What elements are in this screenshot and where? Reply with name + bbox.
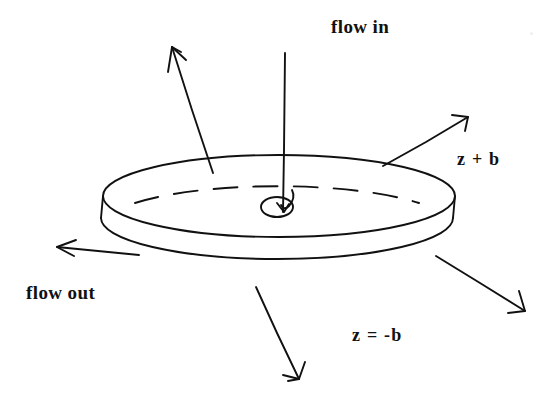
label-bottom-surface-z-equals-minus-b: z = -b	[352, 326, 402, 344]
label-top-surface-z-plus-b: z + b	[457, 150, 500, 168]
scan-artifact-speck	[530, 32, 533, 35]
disk-side-wall-right	[453, 196, 455, 218]
diagram-canvas: flow in z + b flow out z = -b	[0, 0, 546, 405]
outflow-upper-right-shaft	[383, 117, 468, 166]
disk-top-face-outline	[103, 155, 455, 237]
flow-disk-illustration	[0, 0, 546, 405]
disk-side-wall-left	[101, 196, 103, 218]
outflow-upper-right-head	[452, 115, 468, 131]
label-flow-in: flow in	[331, 17, 389, 36]
outflow-lower-right-shaft	[436, 256, 525, 311]
outflow-lower-center-head-barb	[288, 379, 299, 381]
flow-in-arrow-shaft	[283, 53, 285, 212]
outflow-upper-left-shaft	[172, 47, 213, 173]
outflow-lower-center-shaft	[256, 287, 299, 379]
label-flow-out: flow out	[26, 283, 95, 302]
disk-bottom-face-hidden-arc	[135, 186, 419, 203]
